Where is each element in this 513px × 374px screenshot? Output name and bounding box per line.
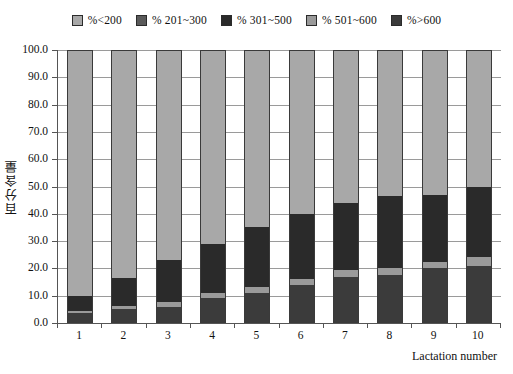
x-axis-tick <box>456 323 457 328</box>
bar-segment <box>67 296 93 312</box>
bar-stack[interactable] <box>377 50 403 323</box>
legend-label: % 501~600 <box>322 14 377 26</box>
legend-label: %>600 <box>407 14 441 26</box>
legend-label: %<200 <box>88 14 122 26</box>
y-axis-tick <box>52 77 58 78</box>
x-axis-tick <box>323 323 324 328</box>
legend-swatch-icon <box>72 15 83 26</box>
y-axis-tick-label: 100.0 <box>22 44 48 56</box>
legend-entry[interactable]: %>600 <box>391 14 441 26</box>
legend-label: % 201~300 <box>152 14 207 26</box>
x-axis-tick-label: 6 <box>298 329 304 341</box>
bar-stack[interactable] <box>67 50 93 323</box>
y-axis-tick-label: 0.0 <box>34 317 48 329</box>
y-axis-tick <box>52 214 58 215</box>
x-axis-tick <box>411 323 412 328</box>
x-axis-tick <box>190 323 191 328</box>
bar-segment <box>156 50 182 260</box>
y-axis-tick-label: 30.0 <box>28 235 48 247</box>
y-axis-tick <box>52 159 58 160</box>
y-axis-tick-label: 90.0 <box>28 72 48 84</box>
x-axis-tick <box>279 323 280 328</box>
x-axis-title: Lactation number <box>412 349 497 364</box>
chart-figure: %<200% 201~300% 301~500% 501~600%>600 百分… <box>0 0 513 374</box>
bar-segment <box>67 311 93 313</box>
bar-segment <box>377 50 403 196</box>
legend-swatch-icon <box>391 15 402 26</box>
x-axis-tick-label: 9 <box>431 329 437 341</box>
bar-stack[interactable] <box>200 50 226 323</box>
bar-segment <box>377 275 403 323</box>
bar-segment <box>422 268 448 323</box>
bar-segment <box>289 214 315 280</box>
bar-segment <box>67 50 93 296</box>
bar-segment <box>156 307 182 323</box>
bar-segment <box>466 257 492 265</box>
chart-legend: %<200% 201~300% 301~500% 501~600%>600 <box>0 14 513 26</box>
bar-segment <box>200 244 226 293</box>
bar-segment <box>466 187 492 258</box>
x-axis-tick-label: 4 <box>209 329 215 341</box>
bar-segment <box>156 260 182 302</box>
bar-segment <box>289 279 315 284</box>
bar-stack[interactable] <box>289 50 315 323</box>
bar-segment <box>244 293 270 323</box>
bar-segment <box>333 203 359 270</box>
bar-segment <box>333 50 359 203</box>
legend-label: % 301~500 <box>237 14 292 26</box>
y-axis-tick-label: 50.0 <box>28 181 48 193</box>
y-axis-tick <box>52 268 58 269</box>
x-axis-tick-label: 8 <box>386 329 392 341</box>
bar-segment <box>422 262 448 269</box>
bar-stack[interactable] <box>156 50 182 323</box>
bar-segment <box>289 50 315 214</box>
y-axis-tick-label: 80.0 <box>28 99 48 111</box>
legend-entry[interactable]: % 301~500 <box>221 14 292 26</box>
x-axis-tick-label: 3 <box>165 329 171 341</box>
y-axis-tick-labels: 100.090.080.070.060.050.040.030.020.010.… <box>0 50 57 323</box>
bar-segment <box>377 196 403 268</box>
bar-segment <box>200 293 226 298</box>
x-axis-tick-label: 10 <box>472 329 484 341</box>
bar-segment <box>111 50 137 278</box>
bar-segment <box>289 285 315 323</box>
bar-stack[interactable] <box>333 50 359 323</box>
x-axis-tick <box>500 323 501 328</box>
bar-segment <box>200 298 226 323</box>
bar-segment <box>377 268 403 275</box>
y-axis-tick-label: 10.0 <box>28 290 48 302</box>
x-axis-tick <box>101 323 102 328</box>
legend-entry[interactable]: % 501~600 <box>306 14 377 26</box>
x-axis-tick <box>367 323 368 328</box>
y-axis-tick <box>52 187 58 188</box>
bar-segment <box>244 227 270 287</box>
x-axis-tick <box>234 323 235 328</box>
bar-segment <box>111 306 137 309</box>
x-axis-tick <box>57 323 58 328</box>
y-axis-tick <box>52 105 58 106</box>
bar-segment <box>422 195 448 262</box>
bar-segment <box>111 278 137 306</box>
x-axis-tick-label: 5 <box>253 329 259 341</box>
y-axis-tick-label: 70.0 <box>28 126 48 138</box>
legend-entry[interactable]: %<200 <box>72 14 122 26</box>
y-axis-tick-label: 20.0 <box>28 263 48 275</box>
bar-segment <box>156 302 182 306</box>
bar-stack[interactable] <box>466 50 492 323</box>
bar-segment <box>244 50 270 227</box>
x-axis-tick-label: 1 <box>76 329 82 341</box>
bar-stack[interactable] <box>244 50 270 323</box>
legend-entry[interactable]: % 201~300 <box>136 14 207 26</box>
bar-segment <box>333 270 359 277</box>
legend-swatch-icon <box>136 15 147 26</box>
bar-segment <box>67 313 93 323</box>
y-axis-tick <box>52 241 58 242</box>
bar-segment <box>244 287 270 293</box>
x-axis-tick <box>146 323 147 328</box>
bar-stack[interactable] <box>111 50 137 323</box>
y-axis-tick <box>52 50 58 51</box>
bar-stack[interactable] <box>422 50 448 323</box>
y-axis-tick-label: 40.0 <box>28 208 48 220</box>
y-axis-tick-label: 60.0 <box>28 153 48 165</box>
bar-segment <box>333 277 359 323</box>
